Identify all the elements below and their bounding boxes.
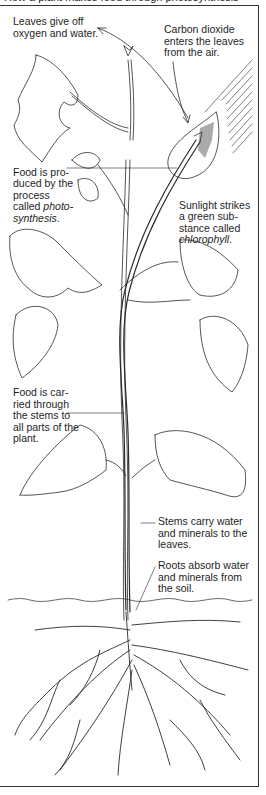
label-sunlight: Sunlight strikes a green sub- stance cal… <box>179 188 250 246</box>
label-food-carried: Food is car- ried through the stems to a… <box>13 387 79 445</box>
label-sunlight-text: Sunlight strikes a green sub- stance cal… <box>179 199 250 234</box>
label-carbon-dioxide: Carbon dioxide enters the leaves from th… <box>164 24 244 59</box>
label-food-produced: Food is pro- duced by the process called… <box>13 155 73 224</box>
label-sunlight-tail: . <box>229 233 232 245</box>
roots <box>15 612 248 775</box>
label-food-produced-tail: . <box>57 212 60 224</box>
hatched-leaf <box>168 112 219 179</box>
label-leaves-give-off: Leaves give off oxygen and water. <box>13 16 98 39</box>
carbon-dioxide-arrow <box>173 62 188 122</box>
label-stems-carry: Stems carry water and minerals to the le… <box>158 516 247 551</box>
label-roots-absorb: Roots absorb water and minerals from the… <box>158 560 249 595</box>
label-chlorophyll-term: chlorophyll <box>179 233 229 245</box>
